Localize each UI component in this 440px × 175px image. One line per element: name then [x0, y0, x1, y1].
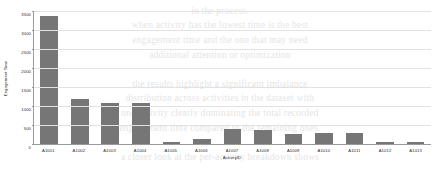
gridline: [34, 68, 431, 69]
bar: [376, 142, 394, 144]
plot-area: 0500100015002000250030003500: [33, 11, 431, 145]
x-axis-tick-label: A1013: [400, 148, 431, 153]
bar: [193, 139, 211, 144]
x-axis-tick-labels: A1001A1002A1003A1004A1005A1006A1007A1008…: [33, 148, 431, 153]
x-axis-tick-label: A1011: [339, 148, 370, 153]
gridline: [34, 125, 431, 126]
y-axis-title: Engagement Time: [0, 11, 12, 145]
x-axis-tick-label: A1006: [186, 148, 217, 153]
bar: [315, 133, 333, 144]
bar: [346, 133, 364, 144]
y-axis-tick-mark: [32, 49, 34, 50]
bar: [285, 134, 303, 144]
y-axis-tick-mark: [32, 144, 34, 145]
y-axis-tick-label: 2500: [21, 50, 31, 55]
y-axis-tick-label: 3500: [21, 12, 31, 17]
x-axis-tick-label: A1002: [64, 148, 95, 153]
y-axis-tick-mark: [32, 30, 34, 31]
x-axis-tick-label: A1008: [247, 148, 278, 153]
bar: [224, 129, 242, 144]
y-axis-tick-label: 500: [24, 126, 31, 131]
gridline: [34, 11, 431, 12]
y-axis-tick-label: 1000: [21, 107, 31, 112]
y-axis-tick-mark: [32, 106, 34, 107]
y-axis-tick-label: 1500: [21, 88, 31, 93]
x-axis-tick-label: A1012: [370, 148, 401, 153]
gridline: [34, 106, 431, 107]
x-axis-title: ActivityID: [33, 155, 431, 160]
x-axis-tick-label: A1004: [125, 148, 156, 153]
y-axis-tick-label: 2000: [21, 69, 31, 74]
gridline: [34, 87, 431, 88]
y-axis-title-label: Engagement Time: [4, 60, 9, 95]
x-axis-tick-label: A1007: [217, 148, 248, 153]
y-axis-tick-mark: [32, 87, 34, 88]
bar: [101, 103, 119, 144]
y-axis-tick-mark: [32, 125, 34, 126]
y-axis-tick-mark: [32, 11, 34, 12]
y-axis-tick-label: 0: [29, 145, 31, 150]
x-axis-tick-label: A1005: [155, 148, 186, 153]
x-axis-tick-label: A1009: [278, 148, 309, 153]
bar-chart-figure: Engagement Time 050010001500200025003000…: [0, 0, 440, 175]
x-axis-tick-label: A1003: [94, 148, 125, 153]
bar: [254, 130, 272, 144]
bar: [163, 142, 181, 144]
gridline: [34, 49, 431, 50]
y-axis-tick-label: 3000: [21, 31, 31, 36]
bar: [132, 103, 150, 144]
gridline: [34, 30, 431, 31]
x-axis-tick-label: A1001: [33, 148, 64, 153]
y-axis-tick-mark: [32, 68, 34, 69]
bar: [407, 142, 425, 144]
x-axis-tick-label: A1010: [308, 148, 339, 153]
